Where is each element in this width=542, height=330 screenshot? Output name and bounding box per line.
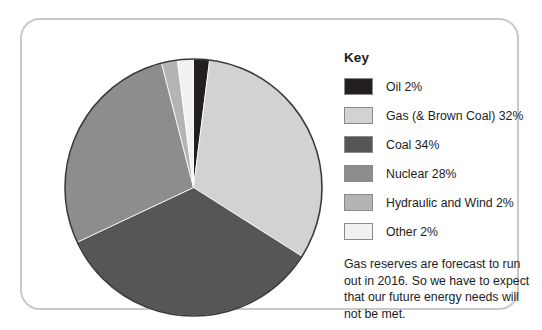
legend-item: Gas (& Brown Coal) 32% [344, 105, 540, 127]
legend-item-label: Nuclear 28% [386, 167, 456, 181]
pie-slice-group [65, 59, 322, 316]
legend-item-label: Hydraulic and Wind 2% [386, 196, 514, 210]
legend-item-label: Other 2% [386, 225, 438, 239]
legend-item: Oil 2% [344, 76, 540, 98]
legend-item-label: Gas (& Brown Coal) 32% [386, 109, 523, 123]
legend-title: Key [344, 51, 540, 66]
legend: Key Oil 2%Gas (& Brown Coal) 32%Coal 34%… [344, 51, 540, 250]
pie-chart [63, 57, 324, 318]
forecast-note: Gas reserves are forecast to run out in … [344, 256, 536, 322]
legend-swatch [344, 194, 373, 211]
chart-card: Key Oil 2%Gas (& Brown Coal) 32%Coal 34%… [20, 18, 519, 310]
legend-item: Nuclear 28% [344, 163, 540, 185]
legend-item: Hydraulic and Wind 2% [344, 192, 540, 214]
pie-chart-svg [63, 57, 324, 318]
legend-item: Other 2% [344, 221, 540, 243]
legend-swatch [344, 165, 373, 182]
legend-item: Coal 34% [344, 134, 540, 156]
legend-item-label: Oil 2% [386, 80, 422, 94]
legend-item-label: Coal 34% [386, 138, 439, 152]
legend-swatch [344, 223, 373, 240]
chart-page: Key Oil 2%Gas (& Brown Coal) 32%Coal 34%… [0, 0, 542, 330]
legend-swatch [344, 136, 373, 153]
legend-swatch [344, 78, 373, 95]
legend-swatch [344, 107, 373, 124]
legend-items: Oil 2%Gas (& Brown Coal) 32%Coal 34%Nucl… [344, 76, 540, 243]
